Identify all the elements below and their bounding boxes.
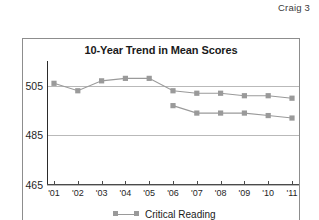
x-tick-label-5: '06 bbox=[167, 188, 179, 198]
x-tick-label-1: '02 bbox=[72, 188, 84, 198]
data-point-marker bbox=[266, 93, 271, 98]
gridline-465 bbox=[47, 185, 299, 186]
x-tick-label-10: '11 bbox=[286, 188, 297, 198]
data-point-marker bbox=[99, 78, 104, 83]
series-line-1 bbox=[173, 106, 292, 118]
y-tick-label-465: 465 bbox=[25, 179, 43, 191]
data-point-marker bbox=[147, 76, 152, 81]
x-tick-label-2: '03 bbox=[96, 188, 108, 198]
data-point-marker bbox=[289, 115, 294, 120]
page-header: Craig 3 bbox=[278, 2, 310, 13]
plot-area: 465485505 '01'02'03'04'05'06'07'08'09'10… bbox=[47, 61, 299, 185]
legend-swatch-icon bbox=[113, 210, 139, 218]
x-tick-label-0: '01 bbox=[48, 188, 60, 198]
x-tick-label-9: '10 bbox=[262, 188, 274, 198]
data-point-marker bbox=[194, 91, 199, 96]
data-point-marker bbox=[218, 91, 223, 96]
x-tick-label-7: '08 bbox=[215, 188, 227, 198]
data-point-marker bbox=[289, 96, 294, 101]
legend-label: Critical Reading bbox=[145, 209, 216, 220]
data-point-marker bbox=[170, 88, 175, 93]
data-point-marker bbox=[218, 110, 223, 115]
data-point-marker bbox=[242, 110, 247, 115]
chart-legend: Critical ReadingWriting bbox=[23, 207, 299, 220]
x-tick-label-6: '07 bbox=[191, 188, 203, 198]
series-plot bbox=[47, 61, 299, 185]
x-tick-label-3: '04 bbox=[120, 188, 132, 198]
data-point-marker bbox=[266, 113, 271, 118]
x-tick-label-8: '09 bbox=[239, 188, 251, 198]
x-tick-label-4: '05 bbox=[143, 188, 155, 198]
data-point-marker bbox=[242, 93, 247, 98]
data-point-marker bbox=[170, 103, 175, 108]
data-point-marker bbox=[75, 88, 80, 93]
y-tick-label-505: 505 bbox=[25, 80, 43, 92]
chart-title: 10-Year Trend in Mean Scores bbox=[23, 44, 299, 56]
y-tick-label-485: 485 bbox=[25, 129, 43, 141]
chart-figure: 10-Year Trend in Mean Scores 465485505 '… bbox=[22, 38, 300, 220]
data-point-marker bbox=[51, 81, 56, 86]
data-point-marker bbox=[123, 76, 128, 81]
data-point-marker bbox=[194, 110, 199, 115]
legend-item-0: Critical Reading bbox=[23, 207, 299, 220]
